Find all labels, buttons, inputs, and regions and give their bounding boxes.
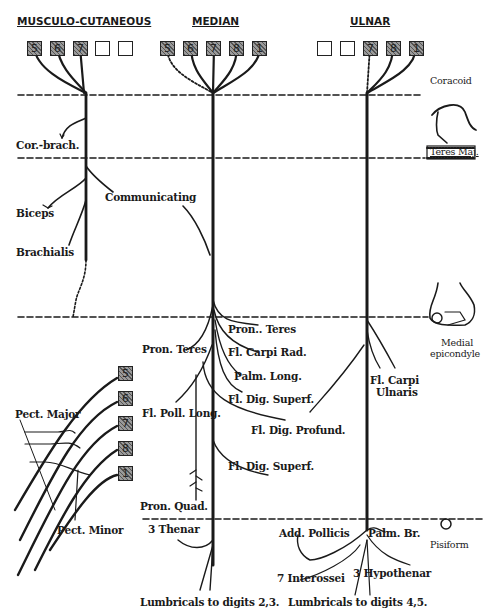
label-fl-carpi-ulnaris-2: Ulnaris	[376, 386, 418, 398]
label-fl-poll-long: Fl. Poll. Long.	[142, 407, 221, 419]
ulnar-root-box-empty	[340, 41, 355, 56]
label-pisiform: Pisiform	[430, 539, 469, 550]
label-fl-dig-superf-1: Fl. Dig. Superf.	[228, 393, 314, 405]
label-cor-brach: Cor.-brach.	[16, 139, 79, 151]
label-fl-carpi-ulnaris-1: Fl. Carpi	[370, 374, 419, 386]
label-brachialis: Brachialis	[16, 246, 74, 258]
label-coracoid: Coracoid	[430, 75, 472, 86]
mc-root-box-c7: 7	[73, 41, 88, 56]
level-lines	[18, 95, 485, 519]
label-fl-dig-profund: Fl. Dig. Profund.	[251, 424, 345, 436]
median-root-box-c8: 8	[229, 41, 244, 56]
header-musculo-cutaneous: MUSCULO-CUTANEOUS	[17, 15, 151, 27]
label-fl-dig-superf-2: Fl. Dig. Superf.	[228, 460, 314, 472]
pectoral-root-box-c7: 7	[118, 416, 133, 431]
pectoral-root-box-c8: 8	[118, 441, 133, 456]
mc-root-box-c5: 5	[27, 41, 42, 56]
label-teres-major: Teres Maj.	[430, 146, 479, 157]
ulnar-root-box-empty	[317, 41, 332, 56]
label-hypothenar: 3 Hypothenar	[353, 567, 431, 579]
label-pron-quad: Pron. Quad.	[140, 500, 208, 512]
label-fl-carpi-rad: Fl. Carpi Rad.	[228, 346, 306, 358]
pectoral-root-box-t1: 1	[118, 466, 133, 481]
ulnar-root-box-t1: 1	[409, 41, 424, 56]
median-root-box-t1: 1	[252, 41, 267, 56]
median-root-box-c7: 7	[206, 41, 221, 56]
ulnar-root-box-c7: 7	[363, 41, 378, 56]
mc-root-box-empty	[95, 41, 110, 56]
label-pect-major: Pect. Major	[15, 408, 80, 420]
label-palm-long: Palm. Long.	[234, 370, 302, 382]
label-biceps: Biceps	[16, 207, 54, 219]
median-root-box-c6: 6	[183, 41, 198, 56]
label-medial-epicondyle-1: Medial	[441, 337, 473, 348]
label-palm-br: Palm. Br.	[368, 527, 420, 539]
header-median: MEDIAN	[192, 15, 239, 27]
ulnar-root-box-c8: 8	[386, 41, 401, 56]
median-root-box-c5: 5	[160, 41, 175, 56]
header-ulnar: ULNAR	[350, 15, 390, 27]
mc-root-box-empty	[118, 41, 133, 56]
label-lumbricals-2-3: Lumbricals to digits 2,3.	[140, 596, 279, 608]
nerve-diagram-drawing	[0, 0, 487, 615]
label-thenar: 3 Thenar	[148, 523, 199, 535]
pectoral-root-box-c5: 5	[118, 366, 133, 381]
label-add-pollicis: Add. Pollicis	[279, 527, 349, 539]
label-pron-teres-right: Pron.. Teres	[228, 323, 296, 335]
label-interossei: 7 Interossei	[277, 572, 345, 584]
pectoral-root-box-c6: 6	[118, 391, 133, 406]
mc-root-box-c6: 6	[50, 41, 65, 56]
label-lumbricals-4-5: Lumbricals to digits 4,5.	[288, 596, 427, 608]
label-pect-minor: Pect. Minor	[57, 524, 123, 536]
label-communicating: Communicating	[105, 191, 196, 203]
label-medial-epicondyle-2: epicondyle	[430, 348, 480, 359]
label-pron-teres-left: Pron. Teres	[142, 343, 207, 355]
